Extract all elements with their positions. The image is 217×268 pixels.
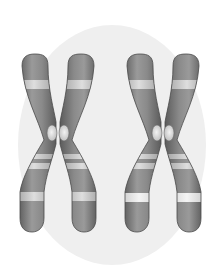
centromere [47, 125, 57, 141]
centromere [59, 125, 69, 141]
chromosome-figure [0, 0, 217, 268]
centromere [164, 125, 174, 141]
centromere [152, 125, 162, 141]
chromosome-illustration: Illustration of two X-shaped chromosomes… [0, 0, 217, 268]
